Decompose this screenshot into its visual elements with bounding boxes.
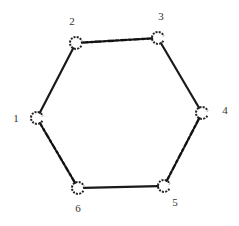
- node-2: [70, 37, 82, 49]
- edge-5-6: [84, 186, 158, 188]
- nodes-group: [31, 32, 208, 194]
- edge-6-1: [40, 123, 75, 183]
- node-5: [158, 180, 170, 192]
- node-1: [31, 112, 43, 124]
- loop-icon: [196, 107, 208, 119]
- node-label-5: 5: [172, 196, 178, 208]
- node-label-3: 3: [158, 10, 164, 22]
- loop-icon: [70, 37, 82, 49]
- loop-icon: [158, 180, 170, 192]
- hexagon-graph: 123456: [0, 0, 239, 226]
- node-label-1: 1: [13, 112, 19, 124]
- edge-3-4: [161, 43, 199, 108]
- edge-4-5: [167, 118, 199, 180]
- edge-2-3: [82, 38, 152, 42]
- node-3: [152, 32, 164, 44]
- node-label-6: 6: [75, 202, 81, 214]
- node-6: [72, 182, 84, 194]
- edge-1-2: [40, 48, 73, 112]
- node-label-2: 2: [69, 15, 75, 27]
- loop-icon: [31, 112, 43, 124]
- node-4: [196, 107, 208, 119]
- loop-icon: [152, 32, 164, 44]
- loop-icon: [72, 182, 84, 194]
- node-label-4: 4: [222, 104, 228, 116]
- edges-group: [40, 38, 199, 188]
